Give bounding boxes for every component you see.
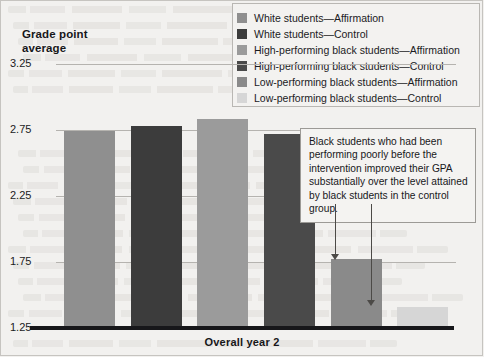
legend-item-1: White students—Control: [237, 26, 479, 42]
callout-leader-line-low-control: [371, 204, 372, 302]
x-axis-label: Overall year 2: [0, 336, 484, 348]
annotation-callout: Black students who had been performing p…: [300, 128, 476, 223]
y-axis-title-line-1: Grade point: [22, 28, 88, 40]
bar-5: [397, 307, 448, 328]
bar-2: [197, 119, 248, 328]
callout-arrowhead-low-affirmation: [331, 254, 339, 260]
x-axis-baseline: [30, 326, 454, 330]
bar-4: [331, 259, 382, 328]
y-axis-tick-3: 1.75: [10, 255, 54, 267]
y-axis-title-line-2: average: [22, 42, 66, 54]
legend-item-label: White students—Affirmation: [254, 10, 384, 26]
legend-swatch-icon-1: [237, 29, 247, 39]
y-axis-title: Grade point average: [22, 28, 142, 55]
legend-swatch-icon-2: [237, 45, 247, 55]
callout-leader-line-low-affirmation: [335, 204, 336, 256]
y-axis-tick-2: 2.25: [10, 189, 54, 201]
callout-arrowhead-low-control: [367, 300, 375, 306]
legend-swatch-icon-0: [237, 13, 247, 23]
annotation-callout-text: Black students who had been performing p…: [309, 135, 468, 215]
legend-item-label: White students—Control: [254, 26, 368, 42]
y-axis-tick-1: 2.75: [10, 123, 54, 135]
legend-item-0: White students—Affirmation: [237, 10, 479, 26]
legend-item-2: High-performing black students—Affirmati…: [237, 42, 479, 58]
legend-item-label: High-performing black students—Affirmati…: [254, 42, 460, 58]
grade-point-average-bar-chart: Grade point average White students—Affir…: [0, 0, 484, 357]
bar-0: [64, 131, 115, 328]
bar-1: [131, 126, 182, 328]
y-axis-tick-0: 3.25: [10, 57, 54, 69]
